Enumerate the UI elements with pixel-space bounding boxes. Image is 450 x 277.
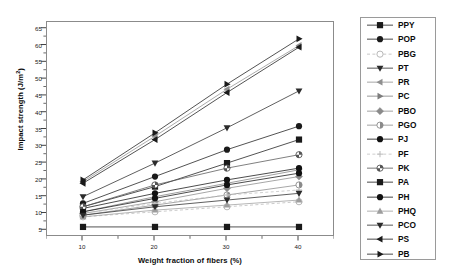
legend-item-pt[interactable]: PT <box>361 61 437 75</box>
legend-label: PJ <box>398 132 408 146</box>
x-axis-title: Weight fraction of fibers (%) <box>46 256 334 265</box>
legend-item-pop[interactable]: POP <box>361 32 437 46</box>
legend-swatch-pa-icon <box>365 175 395 189</box>
legend-swatch-ps-icon <box>365 232 395 246</box>
legend-item-pbo[interactable]: PBO <box>361 104 437 118</box>
legend-swatch-pk-icon <box>365 161 395 175</box>
x-tick-label: 20 <box>151 243 158 250</box>
legend-swatch-pgo-icon <box>365 118 395 132</box>
x-axis-tick-labels: 10203040 <box>46 243 334 253</box>
plot-area <box>46 21 334 236</box>
legend-label: PB <box>398 247 410 261</box>
legend-item-ps[interactable]: PS <box>361 232 437 246</box>
series-pj <box>80 165 302 212</box>
legend-item-pc[interactable]: PC <box>361 89 437 103</box>
series-pa <box>80 224 302 230</box>
legend-swatch-pf-icon <box>365 147 395 161</box>
legend-item-pj[interactable]: PJ <box>361 132 437 146</box>
legend-label: PS <box>398 232 409 246</box>
y-axis-tick-labels: 5101520253035404550556065 <box>18 21 42 236</box>
legend: PPYPOPPBGPTPRPCPBOPGOPJPFPKPAPHPHQPCOPSP… <box>360 17 436 260</box>
x-tick-label: 10 <box>79 243 86 250</box>
legend-label: PBO <box>398 104 416 118</box>
legend-item-pbg[interactable]: PBG <box>361 47 437 61</box>
legend-swatch-pt-icon <box>365 61 395 75</box>
legend-label: PPY <box>398 18 415 32</box>
series-pt <box>80 88 303 200</box>
series-pgo <box>80 182 302 218</box>
legend-item-ph[interactable]: PH <box>361 190 437 204</box>
legend-swatch-ppy-icon <box>365 18 395 32</box>
legend-swatch-pop-icon <box>365 32 395 46</box>
series-pbo <box>79 173 302 217</box>
legend-swatch-pj-icon <box>365 132 395 146</box>
legend-label: PK <box>398 161 410 175</box>
legend-label: PHQ <box>398 204 416 218</box>
chart-root: Impact strength (J/m2) 51015202530354045… <box>0 0 450 277</box>
legend-label: PA <box>398 175 409 189</box>
legend-label: PR <box>398 75 410 89</box>
legend-swatch-pbg-icon <box>365 47 395 61</box>
legend-item-pgo[interactable]: PGO <box>361 118 437 132</box>
legend-label: PBG <box>398 47 416 61</box>
legend-item-pa[interactable]: PA <box>361 175 437 189</box>
legend-label: POP <box>398 32 416 46</box>
legend-label: PC <box>398 89 410 103</box>
legend-label: PGO <box>398 118 416 132</box>
series-ps <box>79 44 301 187</box>
legend-label: PCO <box>398 218 416 232</box>
legend-swatch-pco-icon <box>365 218 395 232</box>
legend-swatch-pc-icon <box>365 89 395 103</box>
legend-item-phq[interactable]: PHQ <box>361 204 437 218</box>
x-tick-label: 40 <box>295 243 302 250</box>
legend-item-ppy[interactable]: PPY <box>361 18 437 32</box>
series-pb <box>81 35 303 183</box>
legend-item-pf[interactable]: PF <box>361 147 437 161</box>
x-tick-label: 30 <box>223 243 230 250</box>
legend-label: PT <box>398 61 409 75</box>
legend-item-pco[interactable]: PCO <box>361 218 437 232</box>
legend-swatch-pb-icon <box>365 247 395 261</box>
legend-item-pk[interactable]: PK <box>361 161 437 175</box>
legend-swatch-pr-icon <box>365 75 395 89</box>
legend-swatch-phq-icon <box>365 204 395 218</box>
legend-label: PF <box>398 147 409 161</box>
legend-swatch-pbo-icon <box>365 104 395 118</box>
legend-item-pr[interactable]: PR <box>361 75 437 89</box>
x-axis-ticks <box>46 236 334 242</box>
legend-swatch-ph-icon <box>365 190 395 204</box>
legend-label: PH <box>398 190 410 204</box>
legend-item-pb[interactable]: PB <box>361 247 437 261</box>
series-layer <box>47 22 335 237</box>
